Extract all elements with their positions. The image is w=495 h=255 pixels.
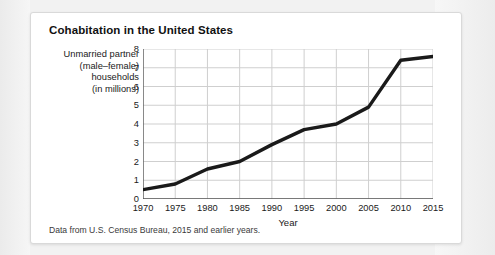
x-tick-label: 2000: [326, 203, 347, 213]
x-tick-label: 1995: [294, 203, 315, 213]
y-tick-label: 3: [134, 138, 139, 148]
x-tick-label: 2015: [423, 203, 444, 213]
y-axis-caption: Unmarried partner (male–female) househol…: [39, 49, 139, 95]
x-tick-label: 1970: [133, 203, 154, 213]
y-axis-caption-line-3: households: [39, 72, 139, 84]
gridlines: [143, 49, 433, 199]
x-tick-label: 1975: [165, 203, 186, 213]
figure-title: Cohabitation in the United States: [49, 24, 233, 36]
plot-area: 012345678 197019751980198519901995200020…: [143, 49, 433, 199]
page-background-left: [0, 0, 30, 255]
y-tick-label: 1: [134, 175, 139, 185]
x-tick-label: 1985: [229, 203, 250, 213]
screenshot-root: Cohabitation in the United States Unmarr…: [0, 0, 495, 255]
y-axis-caption-line-2: (male–female): [39, 61, 139, 73]
y-tick-label: 2: [134, 157, 139, 167]
data-series-line: [143, 57, 433, 190]
y-tick-label: 5: [134, 100, 139, 110]
y-axis-caption-line-1: Unmarried partner: [39, 49, 139, 61]
x-tick-label: 2005: [358, 203, 379, 213]
y-tick-label: 8: [134, 44, 139, 54]
x-tick-label: 1990: [262, 203, 283, 213]
x-tick-label: 1980: [197, 203, 218, 213]
figure-source-caption: Data from U.S. Census Bureau, 2015 and e…: [49, 225, 260, 235]
line-chart-svg: [143, 49, 433, 199]
y-axis-caption-line-4: (in millions): [39, 84, 139, 96]
y-tick-label: 7: [134, 63, 139, 73]
y-tick-label: 6: [134, 82, 139, 92]
figure-card: Cohabitation in the United States Unmarr…: [30, 12, 462, 244]
x-tick-label: 2010: [390, 203, 411, 213]
y-tick-label: 4: [134, 119, 139, 129]
